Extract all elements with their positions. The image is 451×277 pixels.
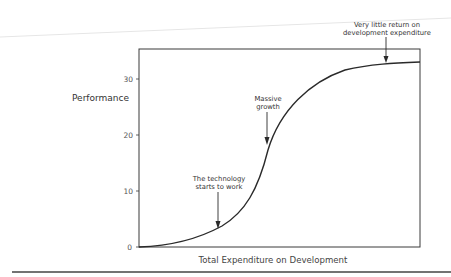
annotation-little-return-line2: development expenditure — [343, 29, 431, 37]
plot-frame — [139, 49, 420, 247]
y-axis-label: Performance — [72, 93, 129, 103]
annotation-massive-growth-line2: growth — [256, 103, 280, 111]
x-axis-label: Total Expenditure on Development — [198, 255, 348, 265]
y-tick-20: 20 — [123, 131, 133, 140]
annotation-tech-works-line2: starts to work — [196, 183, 243, 191]
arrowhead-icon — [384, 56, 389, 63]
annotation-tech-works-line1: The technology — [192, 175, 246, 183]
annotation-little-return-line1: Very little return on — [354, 21, 420, 29]
s-curve-line — [139, 62, 420, 247]
annotation-massive-growth-line1: Massive — [254, 95, 281, 103]
y-tick-10: 10 — [123, 187, 133, 196]
y-tick-0: 0 — [127, 243, 132, 252]
s-curve-chart: 30 20 10 0 Performance Total Expenditure… — [0, 0, 451, 277]
y-tick-30: 30 — [123, 75, 133, 84]
arrowhead-icon — [265, 137, 270, 145]
